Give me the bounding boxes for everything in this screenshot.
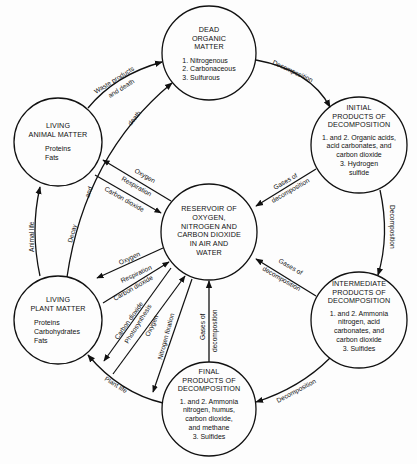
label-oxygen-lower: Oxygen <box>144 314 161 338</box>
plant-title-2: PLANT MATTER <box>18 305 98 314</box>
initial-item-1: 1. and 2. Organic acids, <box>314 134 404 143</box>
intermediate-title-3: DECOMPOSITION <box>314 297 404 306</box>
label-dead-to-initial: Decomposition <box>271 59 314 85</box>
dead-item-2: 2. Carbonaceous <box>182 65 235 74</box>
initial-item-3: carbon dioxide <box>314 151 404 160</box>
final-item-2: nitrogen, humus, <box>166 406 252 415</box>
intermediate-item-1: 1. and 2. Ammonia <box>314 310 404 319</box>
animal-title-2: ANIMAL MATTER <box>14 131 102 140</box>
final-item-5: 3. Sulfides <box>166 433 252 442</box>
intermediate-item-5: 3. Sulfides <box>314 345 404 354</box>
intermediate-item-2: nitrogen, acid <box>314 318 404 327</box>
label-decay: Decay <box>66 223 79 244</box>
node-final-text: FINAL PRODUCTS OF DECOMPOSITION 1. and 2… <box>166 368 252 441</box>
dead-item-1: 1. Nitrogenous <box>182 57 235 66</box>
node-initial-text: INITIAL PRODUCTS OF DECOMPOSITION 1. and… <box>314 104 404 177</box>
node-reservoir-text: RESERVOIR OF OXYGEN, NITROGEN AND CARBON… <box>166 205 252 258</box>
label-initial-to-intermediate: Decomposition <box>388 205 396 249</box>
dead-title-3: MATTER <box>169 43 249 52</box>
label-final-gases-1: Gases of <box>199 313 206 340</box>
node-intermediate-text: INTERMEDIATE PRODUCTS OF DECOMPOSITION 1… <box>314 280 404 353</box>
initial-item-2: acid carbonates, and <box>314 142 404 151</box>
initial-item-4: 3. Hydrogen <box>314 160 404 169</box>
reservoir-title-6: WATER <box>166 249 252 258</box>
final-item-4: and methane <box>166 424 252 433</box>
animal-item-1: Proteins <box>45 145 102 154</box>
dead-item-3: 3. Sulfurous <box>182 74 235 83</box>
initial-title-3: DECOMPOSITION <box>314 121 404 130</box>
label-intermediate-to-final: Decomposition <box>275 377 318 405</box>
node-dead-text: DEAD ORGANIC MATTER 1. Nitrogenous 2. Ca… <box>169 26 249 83</box>
label-death: death <box>126 109 142 127</box>
node-plant-text: LIVING PLANT MATTER Proteins Carbohydrat… <box>18 296 98 345</box>
arrow-initial-to-intermediate <box>378 190 385 275</box>
arrow-plant-to-animal <box>35 187 40 276</box>
label-final-to-plant: Plant life <box>103 375 128 395</box>
plant-item-1: Proteins <box>34 319 98 328</box>
plant-item-2: Carbohydrates <box>34 328 98 337</box>
final-item-1: 1. and 2. Ammonia <box>166 398 252 407</box>
final-item-3: carbon dioxide, <box>166 415 252 424</box>
intermediate-item-3: carbonates, and <box>314 327 404 336</box>
plant-item-3: Fats <box>34 337 98 346</box>
animal-item-2: Fats <box>45 154 102 163</box>
node-animal-text: LIVING ANIMAL MATTER Proteins Fats <box>14 122 102 163</box>
initial-item-5: sulfide <box>314 169 404 178</box>
intermediate-item-4: carbon dioxide <box>314 336 404 345</box>
final-title-3: DECOMPOSITION <box>166 385 252 394</box>
label-plant-oxygen: Oxygen <box>117 250 141 267</box>
arrow-final-to-plant <box>88 355 163 403</box>
label-final-gases-2: decomposition <box>211 309 219 352</box>
arrow-plant-to-dead <box>67 83 172 277</box>
label-plant-to-animal: Animal life <box>28 221 35 252</box>
